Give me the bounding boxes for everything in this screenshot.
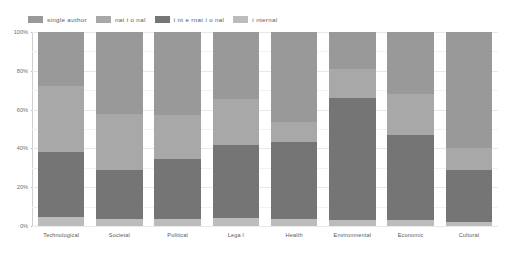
bar-segment[interactable] bbox=[38, 217, 85, 226]
x-axis-tick-label: Economic bbox=[382, 232, 440, 238]
bar-segment[interactable] bbox=[213, 218, 260, 226]
x-axis-line bbox=[32, 226, 498, 227]
y-axis: 100%80%60%40%20%0% bbox=[0, 32, 30, 226]
bar-stack[interactable] bbox=[387, 32, 434, 226]
bar-segment[interactable] bbox=[387, 32, 434, 94]
bar-stack[interactable] bbox=[446, 32, 493, 226]
legend-item[interactable]: single author bbox=[28, 16, 87, 24]
legend-item-label: i nternal bbox=[252, 16, 277, 24]
x-axis-tick-label: Cultural bbox=[440, 232, 498, 238]
x-axis-tick-label: Lega l bbox=[207, 232, 265, 238]
x-axis-tick-label: Technological bbox=[32, 232, 90, 238]
chart-legend: single authornat i o nali nt e rnat i o … bbox=[28, 14, 278, 25]
bar-segment[interactable] bbox=[271, 219, 318, 226]
legend-item-label: single author bbox=[47, 16, 87, 24]
bar-segment[interactable] bbox=[329, 32, 376, 69]
legend-swatch-icon bbox=[28, 16, 43, 23]
stacked-bar-chart: single authornat i o nali nt e rnat i o … bbox=[0, 0, 506, 260]
bar-segment[interactable] bbox=[329, 98, 376, 220]
bar-segment[interactable] bbox=[154, 219, 201, 226]
bar-segment[interactable] bbox=[213, 99, 260, 145]
x-axis-tick-label: Societal bbox=[90, 232, 148, 238]
bar-segment[interactable] bbox=[329, 69, 376, 98]
bar-stack[interactable] bbox=[213, 32, 260, 226]
bar-segment[interactable] bbox=[387, 135, 434, 220]
legend-item-label: i nt e rnat i o nal bbox=[174, 16, 225, 24]
legend-item[interactable]: i nternal bbox=[233, 16, 277, 24]
bar-segment[interactable] bbox=[271, 142, 318, 220]
bar-segment[interactable] bbox=[154, 159, 201, 219]
legend-item[interactable]: i nt e rnat i o nal bbox=[155, 16, 225, 24]
legend-swatch-icon bbox=[155, 16, 170, 23]
legend-swatch-icon bbox=[96, 16, 111, 23]
bar-segment[interactable] bbox=[387, 220, 434, 226]
legend-item[interactable]: nat i o nal bbox=[96, 16, 146, 24]
bar-segment[interactable] bbox=[96, 114, 143, 169]
y-axis-tick-label: 20% bbox=[0, 184, 28, 190]
y-axis-tick-label: 0% bbox=[0, 223, 28, 229]
bar-segment[interactable] bbox=[213, 32, 260, 99]
y-axis-tick-label: 100% bbox=[0, 29, 28, 35]
bar-segment[interactable] bbox=[271, 122, 318, 141]
bar-segment[interactable] bbox=[446, 222, 493, 226]
bar-segment[interactable] bbox=[446, 170, 493, 222]
bar-stack[interactable] bbox=[329, 32, 376, 226]
bar-segment[interactable] bbox=[329, 220, 376, 226]
x-axis-tick-label: Environmental bbox=[323, 232, 381, 238]
x-axis: TechnologicalSocietalPoliticalLega lHeal… bbox=[32, 229, 498, 243]
bar-segment[interactable] bbox=[38, 86, 85, 152]
x-axis-tick-label: Health bbox=[265, 232, 323, 238]
bar-segment[interactable] bbox=[387, 94, 434, 135]
legend-swatch-icon bbox=[233, 16, 248, 23]
bar-segment[interactable] bbox=[38, 152, 85, 217]
bar-stack[interactable] bbox=[154, 32, 201, 226]
bar-segment[interactable] bbox=[96, 170, 143, 219]
plot-area bbox=[32, 32, 498, 226]
bar-segment[interactable] bbox=[271, 32, 318, 122]
bar-segment[interactable] bbox=[38, 32, 85, 86]
y-axis-tick-label: 60% bbox=[0, 107, 28, 113]
x-axis-tick-label: Political bbox=[149, 232, 207, 238]
bar-segment[interactable] bbox=[96, 219, 143, 226]
bar-stack[interactable] bbox=[38, 32, 85, 226]
bar-stack[interactable] bbox=[271, 32, 318, 226]
bar-segment[interactable] bbox=[154, 115, 201, 159]
bar-segment[interactable] bbox=[213, 145, 260, 219]
bar-segment[interactable] bbox=[96, 32, 143, 114]
bar-stack[interactable] bbox=[96, 32, 143, 226]
bar-segment[interactable] bbox=[446, 32, 493, 148]
bar-segment[interactable] bbox=[446, 148, 493, 169]
legend-item-label: nat i o nal bbox=[115, 16, 146, 24]
bar-segment[interactable] bbox=[154, 32, 201, 115]
y-axis-tick-label: 40% bbox=[0, 145, 28, 151]
y-axis-tick-label: 80% bbox=[0, 68, 28, 74]
